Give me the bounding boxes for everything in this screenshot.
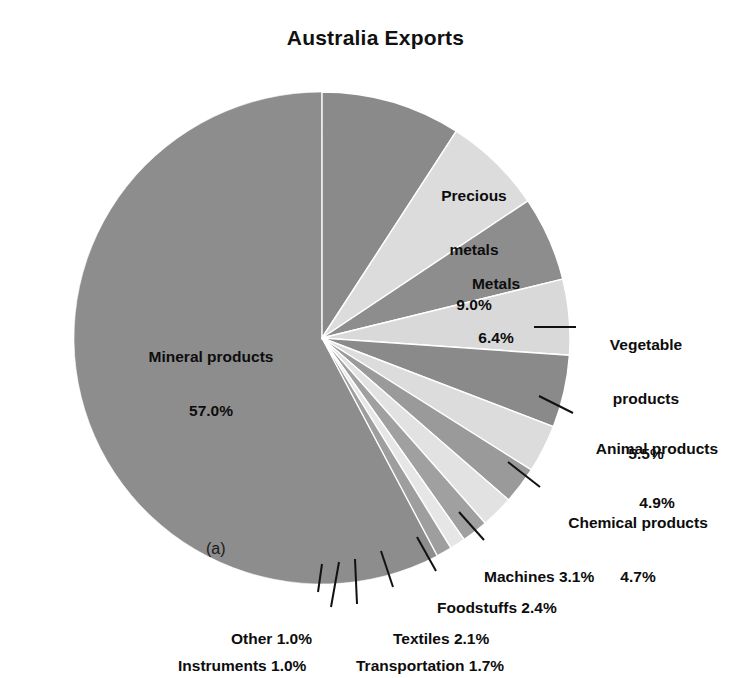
slice-label-mineral-products-line1: Mineral products: [115, 348, 307, 366]
slice-label-metals-value: 6.4%: [444, 329, 548, 347]
figure-tag: (a): [206, 540, 226, 558]
slice-label-metals: Metals 6.4%: [444, 238, 548, 384]
slice-label-animal-products-line1: Animal products: [572, 440, 742, 458]
slice-label-metals-line1: Metals: [444, 275, 548, 293]
slice-label-transportation: Transportation 1.7%: [356, 620, 504, 678]
slice-label-vegetable-products-line1: Vegetable: [576, 336, 716, 354]
slice-label-other: Other 1.0%: [231, 593, 312, 678]
slice-label-transportation-text: Transportation 1.7%: [356, 657, 504, 675]
slice-label-other-text: Other 1.0%: [231, 630, 312, 648]
slice-label-chemical-products-line1: Chemical products: [538, 514, 738, 532]
slice-label-precious-metals-line1: Precious: [415, 187, 533, 205]
slice-label-mineral-products-value: 57.0%: [115, 402, 307, 420]
slice-label-mineral-products: Mineral products 57.0%: [115, 311, 307, 457]
